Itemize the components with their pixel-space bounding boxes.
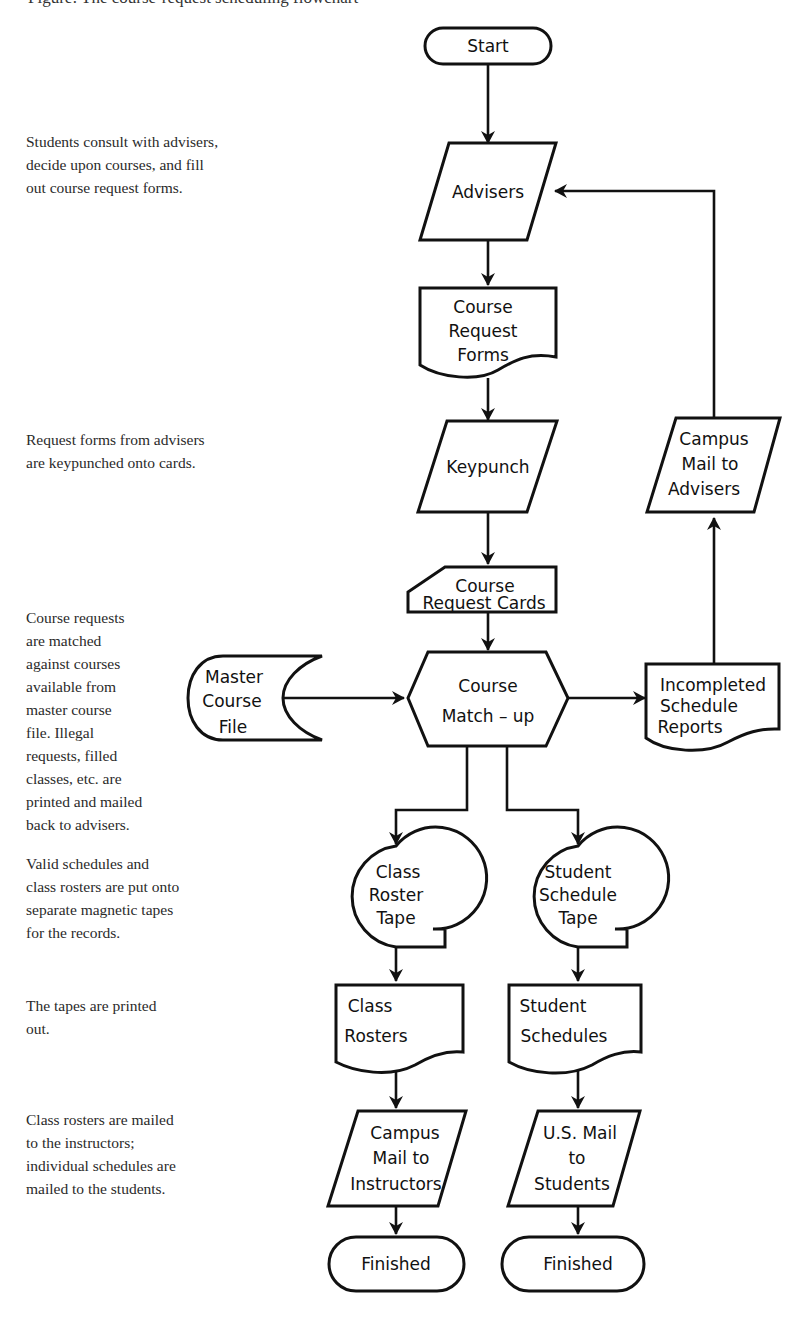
node-campus-advisers: Campus Mail to Advisers <box>647 418 780 512</box>
node-forms-line-2: Request <box>448 321 517 341</box>
node-forms: Course Request Forms <box>420 288 556 377</box>
node-finished-left: Finished <box>329 1237 464 1291</box>
node-us-mail-line-3: Students <box>534 1174 610 1194</box>
node-roster-tape-line-1: Class <box>376 862 421 882</box>
node-schedule-tape-line-2: Schedule <box>539 885 617 905</box>
node-us-mail-line-2: to <box>568 1148 585 1168</box>
node-schedules: Student Schedules <box>509 985 641 1073</box>
flowchart: Start Advisers Course Request Forms Keyp… <box>0 0 804 1323</box>
node-start: Start <box>425 28 551 64</box>
node-master-line-2: Course <box>202 691 261 711</box>
node-schedule-tape-line-3: Tape <box>557 908 597 928</box>
node-matchup-line-2: Match – up <box>442 706 535 726</box>
node-campus-advisers-line-3: Advisers <box>668 479 740 499</box>
node-roster-tape-line-2: Roster <box>369 885 423 905</box>
node-cards-line-2: Request Cards <box>422 593 545 613</box>
node-finished-right-label: Finished <box>543 1254 613 1274</box>
node-campus-instructors: Campus Mail to Instructors <box>328 1111 466 1206</box>
node-incomplete-line-3: Reports <box>657 717 722 737</box>
node-master-line-3: File <box>219 717 247 737</box>
node-campus-advisers-line-2: Mail to <box>681 454 738 474</box>
node-roster-tape: Class Roster Tape <box>352 827 487 947</box>
node-start-label: Start <box>467 36 509 56</box>
node-keypunch-label: Keypunch <box>446 457 529 477</box>
node-campus-instructors-line-3: Instructors <box>350 1174 441 1194</box>
node-matchup: Course Match – up <box>408 652 568 746</box>
node-rosters: Class Rosters <box>336 985 463 1072</box>
node-forms-line-3: Forms <box>457 345 509 365</box>
node-advisers: Advisers <box>420 143 556 240</box>
node-matchup-line-1: Course <box>458 676 517 696</box>
node-schedule-tape-line-1: Student <box>545 862 612 882</box>
node-finished-right: Finished <box>502 1237 644 1291</box>
node-incomplete-line-2: Schedule <box>660 696 738 716</box>
node-keypunch: Keypunch <box>418 421 557 512</box>
node-schedules-line-1: Student <box>520 996 587 1016</box>
node-forms-line-1: Course <box>453 297 512 317</box>
node-incomplete: Incompleted Schedule Reports <box>646 664 779 750</box>
node-roster-tape-line-3: Tape <box>375 908 415 928</box>
node-campus-advisers-line-1: Campus <box>679 429 748 449</box>
edge-campus-advisers <box>555 191 714 418</box>
node-rosters-line-2: Rosters <box>344 1026 407 1046</box>
node-rosters-line-1: Class <box>348 996 393 1016</box>
node-advisers-label: Advisers <box>452 182 524 202</box>
node-cards: Course Request Cards <box>408 567 556 613</box>
node-schedules-line-2: Schedules <box>521 1026 608 1046</box>
node-master-line-1: Master <box>205 667 263 687</box>
node-finished-left-label: Finished <box>361 1254 431 1274</box>
node-campus-instructors-line-2: Mail to <box>372 1148 429 1168</box>
node-us-mail: U.S. Mail to Students <box>508 1111 640 1206</box>
node-campus-instructors-line-1: Campus <box>370 1123 439 1143</box>
node-us-mail-line-1: U.S. Mail <box>543 1123 617 1143</box>
node-incomplete-line-1: Incompleted <box>660 675 766 695</box>
edge-matchup-scheduletape <box>507 746 578 844</box>
node-schedule-tape: Student Schedule Tape <box>534 827 669 947</box>
